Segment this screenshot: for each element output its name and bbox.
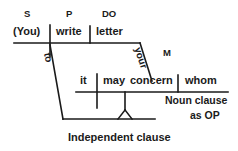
predicate-word: write [56,26,82,37]
modifier-tag: M [163,48,171,58]
direct-object-word: letter [96,26,123,37]
stand-leg-right [125,110,132,119]
clause-object-word: whom [185,75,217,86]
subject-tag: S [24,9,30,19]
noun-clause-label-line2: as OP [190,110,220,121]
stand-leg-left [118,110,125,119]
clause-aux-word: may [103,75,125,86]
preposition-word-to: to [42,52,53,63]
predicate-tag: P [66,9,72,19]
subject-word: (You) [13,26,40,37]
clause-verb-word: concern [130,75,173,86]
independent-clause-label: Independent clause [68,132,171,143]
noun-clause-label-line1: Noun clause [165,95,227,106]
sentence-diagram-canvas: S P DO (You) write letter your M to it m… [0,0,238,151]
clause-subject-word: it [80,75,87,86]
direct-object-tag: DO [102,9,116,19]
